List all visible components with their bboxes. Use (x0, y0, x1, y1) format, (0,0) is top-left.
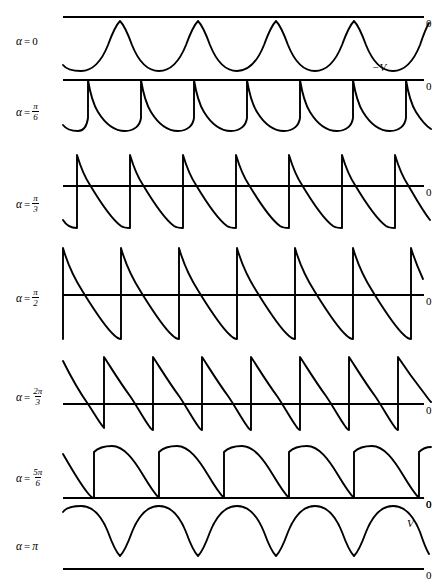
equals-sign: = (24, 293, 30, 304)
equals-sign: = (24, 392, 30, 403)
alpha-value-pi: π (32, 541, 38, 553)
equals-sign: = (24, 473, 30, 484)
alpha-label-pi-over-3: α = π 3 (16, 194, 39, 215)
alpha-symbol: α (16, 392, 22, 404)
alpha-symbol: α (16, 293, 22, 305)
fraction-pi-over-3: π 3 (32, 194, 39, 215)
equals-sign: = (24, 541, 30, 552)
zero-tag-6: 0 (426, 570, 432, 581)
waveform-trace (63, 248, 423, 339)
panel-alpha-pi-over-3: α = π 3 0 (0, 148, 448, 240)
waveform-trace (63, 155, 430, 228)
alpha-label-pi-over-2: α = π 2 (16, 288, 39, 309)
fraction-numerator: π (32, 102, 39, 111)
waveform-plot-alpha-2pi-over-3 (0, 350, 448, 440)
fraction-numerator: π (32, 194, 39, 203)
panel-alpha-pi-over-6: α = π 6 0 (0, 70, 448, 148)
equals-sign: = (24, 36, 30, 47)
fraction-2pi-over-3: 2π 3 (32, 387, 43, 408)
panel-alpha-5pi-over-6: α = 5π 6 0 (0, 440, 448, 512)
waveform-trace (63, 357, 431, 430)
alpha-symbol: α (16, 473, 22, 485)
fraction-pi-over-6: π 6 (32, 102, 39, 123)
panel-alpha-pi: α = π 0 V 0 (0, 505, 448, 584)
panel-alpha-2pi-over-3: α = 2π 3 0 (0, 350, 448, 440)
fraction-denominator: 3 (32, 203, 39, 214)
waveform-plot-alpha-5pi-over-6 (0, 440, 448, 512)
waveform-plot-alpha-pi-over-2 (0, 240, 448, 350)
zero-tag-0: 0 (426, 18, 432, 29)
alpha-label-0: α = 0 (16, 36, 38, 48)
zero-tag-2: 0 (426, 187, 432, 198)
alpha-symbol: α (16, 36, 22, 48)
peak-tag-v: V (407, 518, 414, 529)
fraction-5pi-over-6: 5π 6 (32, 468, 43, 489)
zero-tag-3: 0 (426, 296, 432, 307)
fraction-denominator: 6 (32, 111, 39, 122)
equals-sign: = (24, 199, 30, 210)
alpha-symbol: α (16, 199, 22, 211)
panel-alpha-0: α = 0 0 −V (0, 0, 448, 78)
alpha-value-0: 0 (32, 36, 38, 47)
alpha-label-5pi-over-6: α = 5π 6 (16, 468, 43, 489)
fraction-numerator: 5π (32, 468, 43, 477)
waveform-trace (63, 506, 429, 556)
fraction-denominator: 6 (35, 477, 42, 488)
waveform-plot-alpha-pi-over-3 (0, 148, 448, 240)
fraction-numerator: 2π (32, 387, 43, 396)
zero-tag-6-top: 0 (426, 499, 432, 510)
waveform-figure: α = 0 0 −V α = π 6 0 α = (0, 0, 448, 584)
waveform-plot-alpha-pi (0, 505, 448, 584)
fraction-numerator: π (32, 288, 39, 297)
fraction-denominator: 3 (35, 396, 42, 407)
equals-sign: = (24, 107, 30, 118)
zero-tag-4: 0 (426, 405, 432, 416)
alpha-symbol: α (16, 541, 22, 553)
alpha-symbol: α (16, 107, 22, 119)
alpha-label-pi-over-6: α = π 6 (16, 102, 39, 123)
fraction-pi-over-2: π 2 (32, 288, 39, 309)
panel-alpha-pi-over-2: α = π 2 0 (0, 240, 448, 350)
waveform-trace (63, 446, 431, 498)
zero-tag-1: 0 (426, 81, 432, 92)
waveform-trace (63, 80, 431, 131)
fraction-denominator: 2 (32, 297, 39, 308)
waveform-plot-alpha-pi-over-6 (0, 70, 448, 148)
alpha-label-2pi-over-3: α = 2π 3 (16, 387, 43, 408)
alpha-label-pi: α = π (16, 541, 38, 553)
